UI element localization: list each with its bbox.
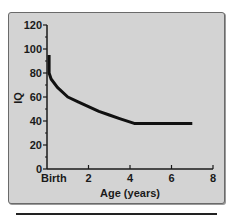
x-tick-label: Birth: [41, 172, 67, 184]
tick-labels: 020406080100120Birth2468: [24, 19, 216, 184]
y-tick-label: 120: [24, 19, 42, 31]
line-chart: 020406080100120Birth2468 Age (years) IQ: [0, 0, 233, 216]
x-tick-label: 6: [168, 172, 174, 184]
x-tick-label: 4: [127, 172, 134, 184]
x-tick-label: 8: [210, 172, 216, 184]
y-axis-title: IQ: [12, 92, 24, 104]
iq-series-line: [49, 55, 192, 123]
axes: [47, 25, 213, 169]
y-tick-label: 20: [30, 139, 42, 151]
x-tick-label: 2: [85, 172, 91, 184]
x-axis-title: Age (years): [100, 187, 160, 199]
y-tick-label: 80: [30, 67, 42, 79]
divider-line: [16, 213, 217, 215]
y-tick-label: 100: [24, 43, 42, 55]
y-tick-label: 40: [30, 115, 42, 127]
y-tick-label: 60: [30, 91, 42, 103]
